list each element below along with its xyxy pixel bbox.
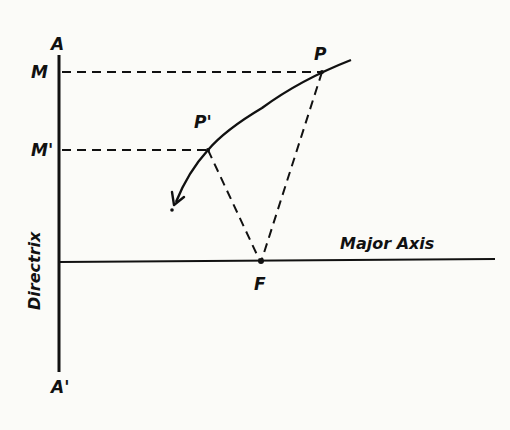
point-p-prime: [206, 148, 210, 152]
label-p: P: [314, 46, 326, 63]
diagram-svg: [0, 0, 510, 430]
label-major-axis: Major Axis: [340, 236, 434, 252]
pf-dashed-line: [262, 72, 322, 259]
label-m-prime: M': [31, 142, 53, 159]
diagram-canvas: A M M' P P' F A' Major Axis Directrix: [0, 0, 510, 430]
label-directrix: Directrix: [27, 232, 43, 310]
focus-point: [258, 258, 264, 264]
end-dot: [170, 208, 174, 212]
label-f: F: [254, 276, 266, 293]
label-a-prime: A': [51, 379, 69, 396]
label-p-prime: P': [194, 114, 212, 131]
label-a: A: [51, 36, 64, 53]
point-p: [320, 70, 324, 74]
pprime-f-dashed-line: [208, 150, 259, 259]
major-axis-line: [60, 259, 495, 262]
label-m: M: [31, 64, 48, 81]
